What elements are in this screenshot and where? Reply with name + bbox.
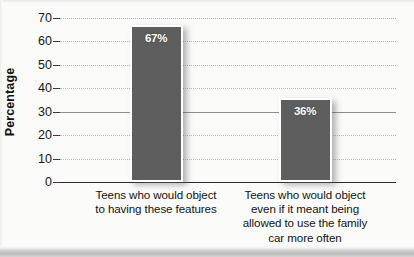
y-axis-tick <box>53 112 60 113</box>
bar-value-label: 67% <box>132 32 181 44</box>
x-axis-category-label: Teens who would objecteven if it meant b… <box>210 188 400 245</box>
y-axis-tick-label: 40 <box>22 81 52 95</box>
bar: 36% <box>279 98 332 182</box>
plot-area: 706050403020100 67%36% <box>60 18 396 182</box>
bar: 67% <box>130 25 183 182</box>
page-top-edge <box>0 0 414 3</box>
y-axis-tick-label: 60 <box>22 34 52 48</box>
y-axis-tick-label: 70 <box>22 11 52 25</box>
category-label-line: Teens who would object <box>210 188 400 202</box>
y-axis-tick-label: 20 <box>22 128 52 142</box>
y-axis-tick-label: 50 <box>22 58 52 72</box>
gridline <box>60 112 396 113</box>
category-label-line: allowed to use the family <box>210 216 400 230</box>
page-bottom-edge <box>0 246 414 257</box>
gridline <box>60 18 396 19</box>
y-axis-title-text: Percentage <box>3 68 17 136</box>
gridline <box>60 135 396 136</box>
y-axis-tick-label: 10 <box>22 152 52 166</box>
y-axis-tick <box>53 18 60 19</box>
gridline <box>60 159 396 160</box>
y-axis-tick <box>53 182 60 183</box>
bar-value-label: 36% <box>281 105 330 117</box>
x-axis-line <box>60 182 396 183</box>
y-axis-title: Percentage <box>2 40 18 164</box>
bar-chart-figure: Percentage 706050403020100 67%36% Teens … <box>0 0 414 257</box>
gridline <box>60 88 396 89</box>
gridline <box>60 65 396 66</box>
category-label-line: car more often <box>210 231 400 245</box>
gridline <box>60 41 396 42</box>
y-axis-tick <box>53 65 60 66</box>
y-axis-tick <box>53 41 60 42</box>
y-axis-tick-label: 30 <box>22 105 52 119</box>
y-axis-tick <box>53 135 60 136</box>
y-axis-tick <box>53 159 60 160</box>
y-axis-tick-label: 0 <box>22 175 52 189</box>
category-label-line: even if it meant being <box>210 202 400 216</box>
y-axis-tick <box>53 88 60 89</box>
